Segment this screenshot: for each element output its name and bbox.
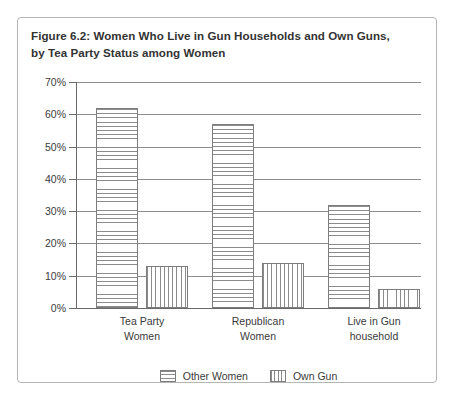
figure-title-line-1: Figure 6.2: Women Who Live in Gun Househ… bbox=[31, 28, 423, 45]
ytick-70 bbox=[69, 82, 76, 83]
category-label-line-2: Women bbox=[202, 329, 314, 344]
category-label-line-2: household bbox=[318, 329, 430, 344]
category-label-line-2: Women bbox=[86, 329, 198, 344]
y-axis-label-70: 70% bbox=[45, 76, 66, 88]
category-label-republican-women: Republican Women bbox=[202, 314, 314, 343]
category-label-line-1: Live in Gun bbox=[318, 314, 430, 329]
bar-own-gun-tea-party bbox=[146, 266, 188, 308]
ytick-40 bbox=[69, 179, 76, 180]
category-label-tea-party-women: Tea Party Women bbox=[86, 314, 198, 343]
figure-title: Figure 6.2: Women Who Live in Gun Househ… bbox=[31, 28, 423, 61]
chart-legend: Other Women Own Gun bbox=[76, 370, 421, 382]
category-label-line-1: Republican bbox=[202, 314, 314, 329]
y-axis-label-20: 20% bbox=[45, 237, 66, 249]
y-axis-label-0: 0% bbox=[51, 302, 66, 314]
bar-other-women-republican bbox=[212, 124, 254, 308]
legend-item-other-women: Other Women bbox=[160, 370, 248, 382]
y-axis-label-30: 30% bbox=[45, 205, 66, 217]
legend-item-own-gun: Own Gun bbox=[270, 370, 337, 382]
legend-swatch-horizontal-hatch-icon bbox=[160, 370, 176, 382]
bar-other-women-gun-household bbox=[328, 205, 370, 308]
y-axis-label-40: 40% bbox=[45, 173, 66, 185]
legend-label-other-women: Other Women bbox=[183, 370, 248, 382]
axis-baseline-0 bbox=[76, 308, 421, 309]
bar-own-gun-gun-household bbox=[378, 289, 420, 308]
y-axis-label-50: 50% bbox=[45, 141, 66, 153]
ytick-50 bbox=[69, 147, 76, 148]
legend-swatch-vertical-hatch-icon bbox=[270, 370, 286, 382]
ytick-0 bbox=[69, 308, 76, 309]
category-label-gun-household: Live in Gun household bbox=[318, 314, 430, 343]
ytick-20 bbox=[69, 243, 76, 244]
bar-chart-plot-area: 70% 60% 50% 40% 30% 20% 10% 0% Tea Party… bbox=[76, 82, 421, 308]
y-axis-label-10: 10% bbox=[45, 270, 66, 282]
figure-title-line-2: by Tea Party Status among Women bbox=[31, 45, 423, 62]
gridline-70 bbox=[76, 82, 421, 83]
category-label-line-1: Tea Party bbox=[86, 314, 198, 329]
ytick-30 bbox=[69, 211, 76, 212]
legend-label-own-gun: Own Gun bbox=[293, 370, 337, 382]
y-axis-label-60: 60% bbox=[45, 108, 66, 120]
ytick-60 bbox=[69, 114, 76, 115]
bar-own-gun-republican bbox=[262, 263, 304, 308]
y-axis-line bbox=[76, 82, 77, 308]
bar-other-women-tea-party bbox=[96, 108, 138, 308]
ytick-10 bbox=[69, 276, 76, 277]
figure-panel: Figure 6.2: Women Who Live in Gun Househ… bbox=[17, 17, 437, 383]
